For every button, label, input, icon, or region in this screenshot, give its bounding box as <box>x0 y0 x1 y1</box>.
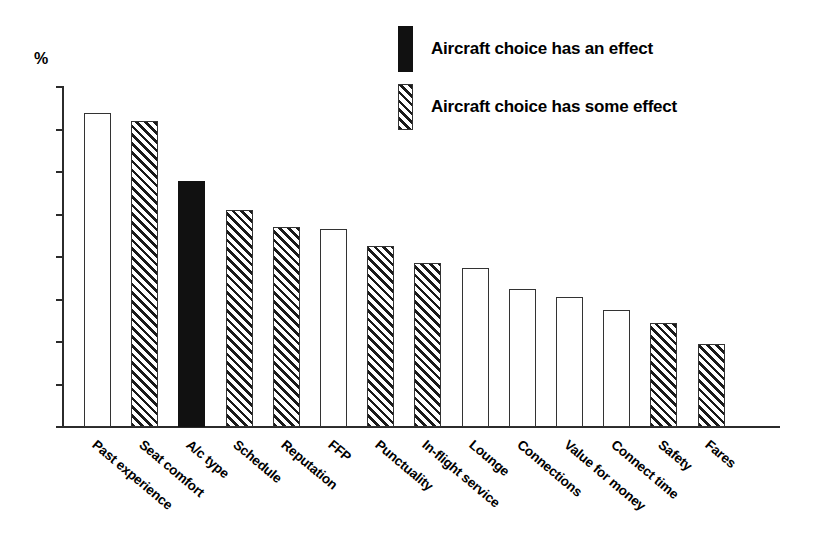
y-axis-tick-mark <box>56 171 64 173</box>
y-axis-tick-mark <box>56 299 64 301</box>
bar <box>414 263 441 427</box>
y-axis-tick-mark <box>56 86 64 88</box>
x-axis-label: Safety <box>656 437 696 474</box>
bar <box>273 227 300 427</box>
legend-swatch <box>398 26 413 72</box>
x-axis-label: Fares <box>703 437 739 471</box>
x-axis-label: Value for money <box>561 437 648 514</box>
y-axis-title: % <box>34 50 48 68</box>
x-axis-label: Past experience <box>89 437 175 513</box>
x-axis-label: FFP <box>325 437 354 465</box>
bar <box>603 310 630 427</box>
legend-label: Aircraft choice has some effect <box>431 97 677 117</box>
y-axis-tick-mark <box>56 384 64 386</box>
bar <box>698 344 725 427</box>
bar <box>131 121 158 427</box>
y-axis-tick-mark <box>56 341 64 343</box>
bar <box>650 323 677 427</box>
legend-swatch <box>398 84 413 130</box>
x-axis-label: Lounge <box>467 437 513 479</box>
bar <box>462 268 489 427</box>
bar <box>84 113 111 428</box>
x-axis-label: Schedule <box>231 437 285 486</box>
bar <box>556 297 583 427</box>
bar <box>509 289 536 427</box>
bar <box>367 246 394 427</box>
bar <box>226 210 253 427</box>
y-axis-tick-mark <box>56 214 64 216</box>
bar <box>178 181 205 428</box>
legend-item: Aircraft choice has some effect <box>398 84 677 130</box>
y-axis-tick-mark <box>56 129 64 131</box>
legend-label: Aircraft choice has an effect <box>431 39 653 59</box>
y-axis-tick-mark <box>56 256 64 258</box>
x-axis-label: In-flight service <box>420 437 503 510</box>
bar <box>320 229 347 427</box>
bar-chart-figure: % 01020304050607080 Past experienceSeat … <box>0 0 820 544</box>
legend-item: Aircraft choice has an effect <box>398 26 653 72</box>
